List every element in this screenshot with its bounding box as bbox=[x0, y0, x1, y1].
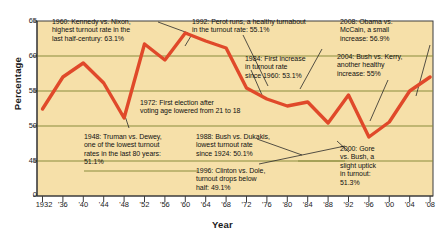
annotation-1996-line2: turnout drops below bbox=[196, 175, 296, 183]
annotation-1984-line1: 1984: First increase bbox=[245, 55, 335, 63]
annotation-1996-line3: half: 49.1% bbox=[196, 184, 296, 192]
annotation-2000-line2: vs. Bush, a bbox=[340, 153, 395, 161]
annotation-1996-line1: 1996: Clinton vs. Dole, bbox=[196, 167, 296, 175]
annotation-1992-line2: in the turnout rate: 55.1% bbox=[192, 26, 332, 34]
annotation-1948-line1: 1948: Truman vs. Dewey, bbox=[84, 133, 199, 141]
annotation-1988-line3: since 1924: 50.1% bbox=[196, 150, 296, 158]
annotation-1988: 1988: Bush vs. Dukakis, lowest turnout r… bbox=[196, 133, 296, 158]
annotation-1960-line1: 1960: Kennedy vs. Nixon, bbox=[52, 18, 160, 26]
annotation-1972: 1972: First election after voting age lo… bbox=[140, 99, 265, 116]
annotation-2008-line3: increase: 56.9% bbox=[340, 35, 430, 43]
x-tick-2008: '08 bbox=[415, 200, 445, 209]
annotation-2000-line5: 51.3% bbox=[340, 179, 395, 187]
annotation-2000-line4: in turnout: bbox=[340, 170, 395, 178]
annotation-2000-line1: 2000: Gore bbox=[340, 145, 395, 153]
annotation-2000: 2000: Gore vs. Bush, a slight uptick in … bbox=[340, 145, 395, 187]
annotation-1948: 1948: Truman vs. Dewey, one of the lowes… bbox=[84, 133, 199, 167]
voter-turnout-chart: 65 60 55 50 45 0 1932 '36 '40 '44 '48 '5… bbox=[0, 0, 445, 239]
annotation-2004-line2: another healthy bbox=[337, 61, 429, 69]
annotation-1996: 1996: Clinton vs. Dole, turnout drops be… bbox=[196, 167, 296, 192]
annotation-1948-line3: rates in the last 80 years: bbox=[84, 150, 199, 158]
annotation-1960: 1960: Kennedy vs. Nixon, highest turnout… bbox=[52, 18, 160, 43]
annotation-2008-line2: McCain, a small bbox=[340, 26, 430, 34]
annotation-1960-line2: highest turnout rate in the bbox=[52, 26, 160, 34]
annotation-1988-line2: lowest turnout rate bbox=[196, 141, 296, 149]
annotation-1948-line4: 51.1% bbox=[84, 158, 199, 166]
annotation-2004: 2004: Bush vs. Kerry, another healthy in… bbox=[337, 53, 429, 78]
annotation-2008: 2008: Obama vs. McCain, a small increase… bbox=[340, 18, 430, 43]
annotation-1984-line2: in turnout rate bbox=[245, 63, 335, 71]
annotation-1984-line3: since 1960: 53.1% bbox=[245, 72, 335, 80]
annotation-1948-line2: one of the lowest turnout bbox=[84, 141, 199, 149]
annotation-1988-line1: 1988: Bush vs. Dukakis, bbox=[196, 133, 296, 141]
annotation-2004-line1: 2004: Bush vs. Kerry, bbox=[337, 53, 429, 61]
annotation-1992: 1992: Perot runs, a healthy turnabout in… bbox=[192, 18, 332, 35]
annotation-1984: 1984: First increase in turnout rate sin… bbox=[245, 55, 335, 80]
annotation-2008-line1: 2008: Obama vs. bbox=[340, 18, 430, 26]
annotation-2000-line3: slight uptick bbox=[340, 162, 395, 170]
annotation-1992-line1: 1992: Perot runs, a healthy turnabout bbox=[192, 18, 332, 26]
y-axis-title: Percentage bbox=[12, 39, 23, 129]
annotation-2004-line3: increase: 55% bbox=[337, 70, 429, 78]
x-axis-title: Year bbox=[0, 219, 445, 230]
annotation-1972-line1: 1972: First election after bbox=[140, 99, 265, 107]
annotation-1972-line2: voting age lowered from 21 to 18 bbox=[140, 107, 265, 115]
annotation-1960-line3: last half-century: 63.1% bbox=[52, 35, 160, 43]
